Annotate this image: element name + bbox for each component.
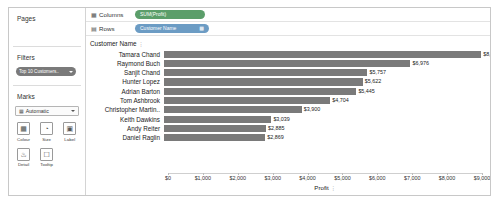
rows-shelf[interactable]: ▤ Rows Customer Name ▩	[86, 22, 490, 36]
x-axis-title-label: Profit	[314, 184, 328, 191]
bar-category-label: Tamara Chand	[86, 50, 164, 59]
bar-track: $5,622	[164, 77, 490, 86]
pill-label: Customer Name	[140, 24, 176, 33]
colour-icon: ▦	[17, 122, 30, 135]
bar-track: $3,039	[164, 115, 490, 124]
bar-mark-icon: ▦	[19, 108, 24, 114]
pill-label: SUM(Profit)	[140, 10, 166, 19]
bar-category-label: Hunter Lopez	[86, 77, 164, 86]
bar-value-label: $4,704	[330, 96, 349, 105]
bar-row[interactable]: Tamara Chand$8,981	[86, 50, 490, 59]
bar-value-label: $3,900	[302, 105, 321, 114]
mark-type-value: Automatic	[26, 106, 71, 116]
marks-button-label[interactable]: ▣ Label	[58, 122, 81, 143]
bar-row[interactable]: Adrian Barton$5,445	[86, 87, 490, 96]
bar-track: $2,869	[164, 133, 490, 142]
bar[interactable]	[164, 134, 265, 141]
bar-value-label: $3,039	[271, 115, 290, 124]
bar[interactable]	[164, 106, 302, 113]
bar-track: $2,885	[164, 124, 490, 133]
mark-type-dropdown[interactable]: ▦ Automatic	[15, 106, 79, 116]
bar-chart-plot: Tamara Chand$8,981Raymond Buch$6,976Sanj…	[86, 36, 490, 195]
bar-track: $5,445	[164, 87, 490, 96]
bar-value-label: $5,757	[367, 68, 386, 77]
tableau-worksheet-window: Pages Filters Top 10 Customers.. Marks ▦…	[8, 7, 491, 196]
axis-tick-label: $4,000	[299, 175, 316, 182]
marks-button-tooltip[interactable]: ☐ Tooltip	[35, 148, 58, 169]
pill-customer-name[interactable]: Customer Name ▩	[135, 24, 209, 33]
rows-shelf-label: Rows	[99, 22, 135, 36]
bar[interactable]	[164, 69, 367, 76]
bar-category-label: Raymond Buch	[86, 59, 164, 68]
axis-tick-label: $1,000	[195, 175, 212, 182]
bar-value-label: $8,981	[481, 50, 490, 59]
marks-button-colour[interactable]: ▦ Colour	[12, 122, 35, 143]
bar-category-label: Andy Reiter	[86, 124, 164, 133]
marks-button-detail[interactable]: ♨ Detail	[12, 148, 35, 169]
left-cards-panel: Pages Filters Top 10 Customers.. Marks ▦…	[9, 8, 86, 195]
bar-category-label: Keith Dawkins	[86, 115, 164, 124]
bar-row[interactable]: Christopher Martin..$3,900	[86, 105, 490, 114]
bar-category-label: Sanjit Chand	[86, 68, 164, 77]
viz-canvas: Customer Name⋮ Tamara Chand$8,981Raymond…	[86, 36, 490, 195]
filter-pill-label: Top 10 Customers..	[19, 67, 68, 76]
columns-shelf[interactable]: ▦ Columns SUM(Profit)	[86, 8, 490, 22]
detail-icon: ♨	[17, 148, 30, 161]
marks-button-label: Tooltip	[40, 162, 53, 168]
bar-row[interactable]: Andy Reiter$2,885	[86, 124, 490, 133]
worksheet-main: ▦ Columns SUM(Profit) ▤ Rows Customer Na…	[86, 8, 490, 195]
marks-button-label: Detail	[18, 162, 29, 168]
bar-category-label: Christopher Martin..	[86, 105, 164, 114]
bar-value-label: $6,976	[410, 59, 429, 68]
bar-row[interactable]: Tom Ashbrook$4,704	[86, 96, 490, 105]
bar-track: $6,976	[164, 59, 490, 68]
columns-icon: ▦	[91, 8, 99, 22]
pages-card: Pages	[9, 8, 85, 41]
chevron-down-icon[interactable]	[71, 110, 75, 112]
axis-line	[168, 173, 482, 174]
tooltip-icon: ☐	[40, 148, 53, 161]
bar-track: $5,757	[164, 68, 490, 77]
bar-value-label: $5,622	[363, 77, 382, 86]
sort-icon[interactable]: ▩	[199, 24, 204, 33]
axis-tick-label: $3,000	[264, 175, 281, 182]
axis-tick-label: $8,000	[439, 175, 456, 182]
marks-button-size[interactable]: ◔ Size	[35, 122, 58, 143]
bar-value-label: $5,445	[356, 87, 375, 96]
bar[interactable]	[164, 60, 410, 67]
bar[interactable]	[164, 116, 271, 123]
bar-track: $8,981	[164, 50, 490, 59]
filters-card-title: Filters	[9, 47, 85, 62]
pill-sum-profit[interactable]: SUM(Profit)	[135, 10, 205, 19]
marks-button-label: Size	[42, 137, 51, 143]
bar-row[interactable]: Sanjit Chand$5,757	[86, 68, 490, 77]
filters-card: Filters Top 10 Customers..	[9, 47, 85, 80]
bar[interactable]	[164, 78, 363, 85]
bar-row[interactable]: Keith Dawkins$3,039	[86, 115, 490, 124]
bar-row[interactable]: Raymond Buch$6,976	[86, 59, 490, 68]
bar-track: $3,900	[164, 105, 490, 114]
axis-tick-label: $9,000	[474, 175, 490, 182]
bar-row[interactable]: Daniel Raglin$2,869	[86, 133, 490, 142]
bar-category-label: Tom Ashbrook	[86, 96, 164, 105]
bar[interactable]	[164, 125, 266, 132]
marks-buttons-grid: ▦ Colour ◔ Size ▣ Label ♨ Detail ☐ Too	[12, 122, 82, 173]
marks-card: Marks ▦ Automatic ▦ Colour ◔ Size ▣ Labe…	[9, 86, 85, 195]
bar-row[interactable]: Hunter Lopez$5,622	[86, 77, 490, 86]
columns-shelf-label: Columns	[99, 8, 135, 22]
bar-value-label: $2,885	[266, 124, 285, 133]
marks-card-title: Marks	[9, 86, 85, 101]
size-icon: ◔	[40, 122, 53, 135]
bar[interactable]	[164, 51, 481, 58]
marks-button-label: Label	[64, 137, 75, 143]
axis-tick-label: $5,000	[334, 175, 351, 182]
filter-caret-icon[interactable]	[69, 71, 73, 73]
bar[interactable]	[164, 97, 330, 104]
filter-pill-top-10-customers[interactable]: Top 10 Customers..	[16, 67, 76, 76]
bar[interactable]	[164, 88, 356, 95]
x-axis: Profit⋮ $0$1,000$2,000$3,000$4,000$5,000…	[168, 173, 482, 195]
axis-tick-label: $2,000	[230, 175, 247, 182]
bar-value-label: $2,869	[265, 133, 284, 142]
sort-icon[interactable]: ⋮	[331, 185, 336, 191]
pages-card-title: Pages	[9, 8, 85, 23]
